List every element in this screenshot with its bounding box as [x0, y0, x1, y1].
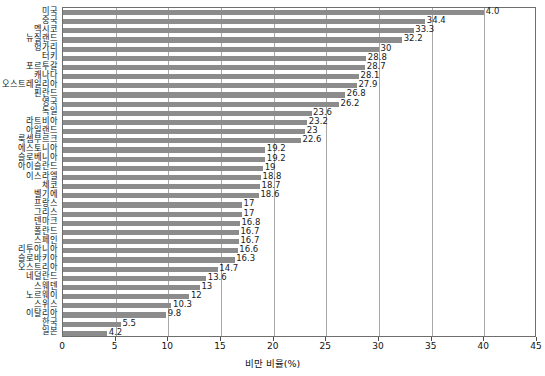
plot-area: 4.034.433.332.23028.828.728.127.926.826.…: [62, 7, 536, 337]
bar-row: 27.9: [63, 82, 535, 91]
bar: [63, 202, 242, 207]
bar: [63, 221, 240, 226]
category-label: 일본: [42, 327, 58, 336]
bar-value-label: 18.6: [260, 189, 279, 200]
bar: [63, 294, 189, 299]
bar: [63, 212, 242, 217]
bar-row: 28.8: [63, 54, 535, 63]
x-axis-tick-label: 5: [112, 341, 118, 351]
bar: [63, 276, 206, 281]
bar-row: 16.3: [63, 256, 535, 265]
bar-value-label: 4.0: [486, 6, 500, 17]
bar-series: 4.034.433.332.23028.828.728.127.926.826.…: [63, 8, 535, 336]
bar: [63, 193, 259, 198]
x-axis-tick-label: 10: [162, 341, 173, 351]
x-axis-tick-label: 0: [59, 341, 65, 351]
bar-value-label: 9.8: [168, 308, 182, 319]
bar: [63, 65, 365, 70]
bar: [63, 56, 366, 61]
x-axis-tick-label: 15: [214, 341, 225, 351]
bar-row: 13.6: [63, 274, 535, 283]
bar-value-label: 22.6: [303, 134, 322, 145]
bar-row: 33.3: [63, 27, 535, 36]
bar-row: 18.7: [63, 182, 535, 191]
bar: [63, 37, 402, 42]
bar: [63, 175, 261, 180]
bar: [63, 303, 171, 308]
bar-row: 14.7: [63, 265, 535, 274]
bar: [63, 10, 484, 15]
bar-row: 4.0: [63, 8, 535, 17]
bar: [63, 166, 263, 171]
bar: [63, 184, 260, 189]
bar-row: 12: [63, 292, 535, 301]
obesity-rate-bar-chart: 미국중국멕시코뉴질랜드헝가리터키포르투갈캐나다오스트레일리아핀란드영국독일라트비…: [0, 0, 545, 376]
x-axis-tick-label: 20: [267, 341, 278, 351]
bar: [63, 28, 414, 33]
bar-row: 23.2: [63, 118, 535, 127]
bar-row: 26.2: [63, 100, 535, 109]
bar: [63, 74, 359, 79]
bar-value-label: 5.5: [122, 318, 136, 329]
bar-row: 18.8: [63, 173, 535, 182]
bar-value-label: 16.3: [236, 253, 255, 264]
bar: [63, 147, 265, 152]
bar: [63, 19, 425, 24]
bar-row: 17: [63, 201, 535, 210]
bar-row: 32.2: [63, 36, 535, 45]
bar: [63, 267, 218, 272]
bar-row: 16.8: [63, 219, 535, 228]
x-axis-tick-label: 35: [425, 341, 436, 351]
bar-row: 23.6: [63, 109, 535, 118]
x-axis-tick-label: 25: [320, 341, 331, 351]
bar-row: 10.3: [63, 302, 535, 311]
bar-row: 23: [63, 127, 535, 136]
bar-row: 28.1: [63, 72, 535, 81]
bar-row: 19: [63, 164, 535, 173]
bar: [63, 230, 239, 235]
bar-row: 5.5: [63, 320, 535, 329]
bar: [63, 312, 166, 317]
bar-row: 17: [63, 210, 535, 219]
bar-row: 16.6: [63, 247, 535, 256]
bar-row: 28.7: [63, 63, 535, 72]
category-axis-labels: 미국중국멕시코뉴질랜드헝가리터키포르투갈캐나다오스트레일리아핀란드영국독일라트비…: [0, 7, 60, 337]
bar: [63, 239, 239, 244]
bar-row: 19.2: [63, 146, 535, 155]
bar: [63, 129, 305, 134]
bar-row: 16.7: [63, 228, 535, 237]
bar: [63, 102, 339, 107]
bar: [63, 47, 379, 52]
bar-value-label: 32.2: [404, 33, 423, 44]
bar-row: 13: [63, 283, 535, 292]
bar-row: 26.8: [63, 91, 535, 100]
bar: [63, 257, 235, 262]
bar-row: 34.4: [63, 17, 535, 26]
bar: [63, 285, 200, 290]
bar-row: 16.7: [63, 237, 535, 246]
bar: [63, 138, 301, 143]
bar: [63, 83, 357, 88]
x-axis-tick-label: 45: [530, 341, 541, 351]
bar: [63, 331, 107, 336]
bar-row: 22.6: [63, 137, 535, 146]
bar: [63, 120, 307, 125]
bar: [63, 248, 238, 253]
bar-value-label: 12: [191, 290, 202, 301]
bar: [63, 92, 345, 97]
x-axis: 051015202530354045: [62, 337, 536, 357]
bar-row: 18.6: [63, 192, 535, 201]
bar: [63, 157, 265, 162]
x-axis-title: 비만 비율(%): [0, 356, 545, 370]
bar-value-label: 26.2: [340, 98, 359, 109]
bar: [63, 111, 312, 116]
x-axis-tick-label: 30: [372, 341, 383, 351]
bar-row: 30: [63, 45, 535, 54]
x-axis-tick-label: 40: [478, 341, 489, 351]
bar-row: 19.2: [63, 155, 535, 164]
bar-value-label: 13: [201, 281, 212, 292]
